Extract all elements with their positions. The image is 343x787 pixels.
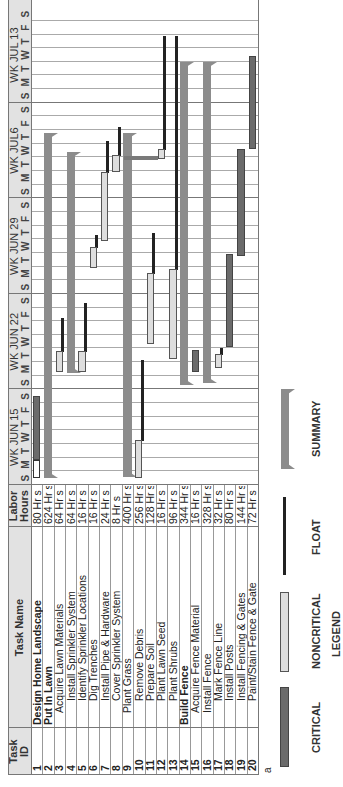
header-bottom-border — [31, 0, 32, 775]
noncritical-bar — [135, 440, 142, 478]
day-gridline — [31, 457, 258, 458]
task-id: 17 — [213, 731, 224, 771]
summary-arrow-start — [180, 376, 194, 385]
noncritical-bar — [56, 351, 63, 371]
day-label: T — [20, 62, 31, 76]
task-id: 3 — [54, 731, 65, 771]
day-gridline — [31, 429, 258, 430]
summary-arrow-start — [203, 374, 217, 383]
noncritical-bar — [147, 273, 154, 344]
day-label: T — [20, 253, 31, 267]
day-gridline — [31, 129, 258, 130]
day-label: F — [20, 21, 31, 35]
day-label: T — [20, 130, 31, 144]
day-label: S — [20, 390, 31, 404]
task-name: Plant Shrubs — [168, 529, 179, 701]
day-gridline — [31, 470, 258, 471]
day-label: S — [20, 471, 31, 485]
day-label: W — [20, 144, 31, 158]
summary-arrow-end — [44, 133, 58, 142]
task-name: Identify Sprinkler Locations — [77, 529, 88, 701]
float-line — [141, 360, 144, 441]
task-name: Install Posts — [224, 529, 235, 701]
critical-bar — [226, 254, 233, 347]
day-label: M — [20, 362, 31, 376]
task-name: Dig Trenches — [88, 529, 99, 701]
day-label: M — [20, 267, 31, 281]
labor-hours: 96 Hr s — [168, 486, 179, 524]
task-id: 1 — [32, 731, 43, 771]
day-label: S — [20, 7, 31, 21]
day-label: S — [20, 89, 31, 103]
day-gridline — [31, 20, 258, 21]
legend-float-label: FLOAT — [310, 519, 322, 555]
day-gridline — [31, 75, 258, 76]
day-label: F — [20, 117, 31, 131]
legend-summary-swatch — [281, 389, 289, 469]
labor-hours: 256 Hr s — [134, 486, 145, 524]
labor-hours: 32 Hr s — [213, 486, 224, 524]
day-gridline — [31, 238, 258, 239]
task-name: Install Fence — [202, 529, 213, 713]
labor-hours: 344 Hr s — [179, 486, 190, 524]
day-label: S — [20, 376, 31, 390]
header-task-name: Task Name — [14, 527, 25, 728]
day-label: S — [20, 185, 31, 199]
summary-bar — [67, 152, 75, 373]
labor-hours: 16 Hr s — [190, 486, 201, 524]
task-id: 6 — [88, 731, 99, 771]
day-label: T — [20, 157, 31, 171]
task-name: Install Sprinkler System — [66, 529, 77, 701]
day-gridline — [31, 416, 258, 417]
day-label: S — [20, 280, 31, 294]
summary-arrow-start — [44, 469, 58, 478]
labor-hours: 8 Hr s — [111, 486, 122, 524]
labor-hours: 64 Hr s — [54, 486, 65, 524]
day-label: T — [20, 35, 31, 49]
task-id: 16 — [202, 731, 213, 771]
day-label: S — [20, 103, 31, 117]
critical-bar — [249, 56, 256, 149]
week-label: WK JUL6 — [8, 103, 20, 199]
week-label: WK JUN 22 — [8, 294, 20, 390]
float-line — [152, 234, 155, 275]
header-labor-hours: Labor Hours — [8, 485, 30, 527]
day-gridline — [31, 252, 258, 253]
labor-hours: 72 Hr s — [247, 486, 258, 524]
task-id: 14 — [179, 731, 190, 771]
day-label: W — [20, 48, 31, 62]
day-label: F — [20, 212, 31, 226]
float-line — [84, 303, 87, 352]
day-label: T — [20, 349, 31, 363]
task-name: Prepare Soil — [145, 529, 156, 701]
day-gridline — [31, 225, 258, 226]
summary-bar — [44, 133, 52, 478]
noncritical-bar — [78, 351, 85, 371]
legend-noncritical-swatch — [280, 592, 289, 672]
task-name: Acquire Fence Material — [190, 529, 201, 713]
task-id: 15 — [190, 731, 201, 771]
day-label: M — [20, 171, 31, 185]
day-gridline — [31, 443, 258, 444]
task-name: Put In Lawn — [43, 529, 54, 725]
day-gridline — [31, 184, 258, 185]
task-name: Cover Sprinkler System — [111, 529, 122, 701]
summary-arrow-end — [180, 62, 194, 71]
noncritical-bar — [215, 354, 222, 368]
col-border-id-name — [8, 727, 258, 728]
task-id: 20 — [247, 731, 258, 771]
task-id: 5 — [77, 731, 88, 771]
week-label: WK JUL 13 — [8, 7, 20, 103]
table-top-border — [8, 0, 9, 775]
week-label: WK JUN 29 — [8, 198, 20, 294]
day-gridline — [31, 307, 258, 308]
task-id: 12 — [156, 731, 167, 771]
week-label: WK JUN 15 — [8, 389, 20, 485]
noncritical-bar — [158, 149, 165, 159]
task-id: 4 — [66, 731, 77, 771]
day-label: F — [20, 308, 31, 322]
summary-arrow-end — [123, 133, 137, 142]
day-label: F — [20, 403, 31, 417]
task-id: 8 — [111, 731, 122, 771]
day-gridline — [31, 375, 258, 376]
